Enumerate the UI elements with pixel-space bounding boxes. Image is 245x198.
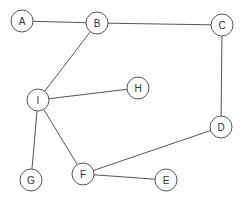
- edge-f-e: [83, 174, 166, 180]
- node-d: D: [210, 116, 232, 138]
- edge-i-f: [38, 100, 83, 174]
- node-label: I: [37, 95, 40, 106]
- node-b: B: [86, 12, 108, 34]
- node-f: F: [72, 163, 94, 185]
- node-label: F: [80, 169, 86, 180]
- edge-i-h: [38, 88, 138, 100]
- node-label: C: [218, 20, 225, 31]
- node-e: E: [155, 169, 177, 191]
- edge-i-g: [31, 100, 38, 180]
- node-label: E: [163, 175, 170, 186]
- node-h: H: [127, 77, 149, 99]
- edges-layer: [22, 21, 222, 180]
- node-label: A: [19, 16, 26, 27]
- node-a: A: [11, 10, 33, 32]
- edge-c-d: [221, 25, 222, 127]
- nodes-layer: ABCHIDGFE: [11, 10, 233, 191]
- graph-diagram: ABCHIDGFE: [0, 0, 245, 198]
- node-c: C: [211, 14, 233, 36]
- node-label: H: [134, 83, 141, 94]
- node-label: D: [217, 122, 224, 133]
- node-label: G: [27, 175, 35, 186]
- edge-b-i: [38, 23, 97, 100]
- node-i: I: [27, 89, 49, 111]
- node-label: B: [94, 18, 101, 29]
- edge-b-c: [97, 23, 222, 25]
- edge-d-f: [83, 127, 221, 174]
- node-g: G: [20, 169, 42, 191]
